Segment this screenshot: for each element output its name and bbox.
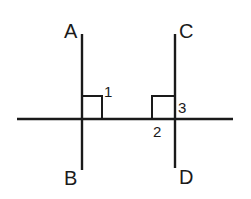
right-angle-mark-1: [82, 96, 102, 119]
angle-1-label: 1: [104, 83, 112, 100]
perpendicular-lines-figure: A B C D 1 2 3: [0, 0, 251, 199]
diagram: A B C D 1 2 3: [0, 0, 251, 199]
angle-2-label: 2: [153, 123, 161, 140]
label-c: C: [179, 20, 193, 42]
right-angle-mark-2: [152, 96, 175, 119]
label-d: D: [179, 166, 193, 188]
angle-3-label: 3: [178, 99, 186, 116]
label-b: B: [64, 167, 77, 189]
label-a: A: [64, 20, 78, 42]
